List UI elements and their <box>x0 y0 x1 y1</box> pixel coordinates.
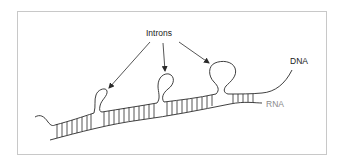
base-pair-rungs <box>57 94 253 138</box>
dna-segment-4-and-tail <box>228 70 292 94</box>
intron-diagram: Introns DNA RNA <box>0 0 344 166</box>
dna-label: DNA <box>290 57 308 66</box>
dna-segment-3 <box>164 94 216 102</box>
intron-loop-3 <box>210 61 236 94</box>
dna-left-tail <box>35 116 55 126</box>
intron-loop-2 <box>157 74 173 103</box>
rna-label: RNA <box>266 100 284 109</box>
intron-loop-1 <box>94 89 107 113</box>
arrow-to-intron-3 <box>179 42 209 63</box>
arrow-to-intron-2 <box>163 43 165 71</box>
dna-segment-1 <box>55 113 94 125</box>
introns-label: Introns <box>146 29 172 38</box>
arrow-to-intron-1 <box>109 42 150 88</box>
hybrid-strand-illustration <box>0 0 344 166</box>
